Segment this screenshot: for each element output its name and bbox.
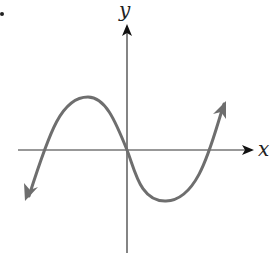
y-axis-label: y xyxy=(118,0,131,22)
function-graph: x y xyxy=(0,0,277,255)
x-axis-label: x xyxy=(258,137,269,161)
bullet-marker xyxy=(0,12,4,16)
